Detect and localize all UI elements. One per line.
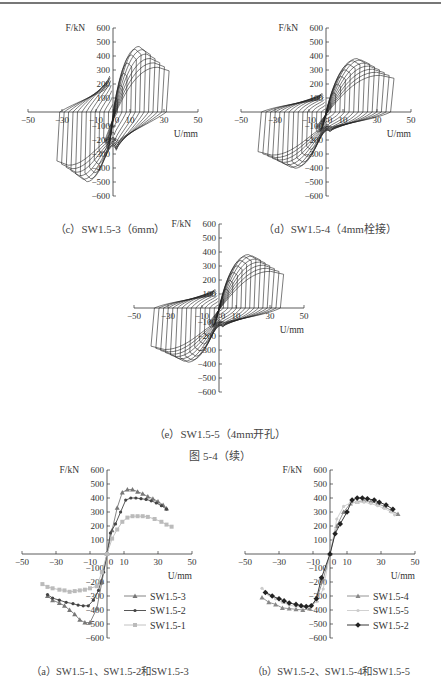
y-tick-label: 500 [203,233,217,243]
y-tick-label: −600 [304,191,323,201]
y-tick-label: −500 [197,373,216,383]
chart-hysteresis-sw15-4: −50−30−100103050600500400300200100−100−2… [220,0,441,210]
chart-skeleton-a: −50−30−100103050600500400300200100−100−2… [0,465,220,655]
y-tick-label: 100 [91,535,105,545]
y-tick-label: 300 [203,261,217,271]
y-tick-label: 600 [310,23,324,33]
x-tick-label: −50 [127,311,142,321]
x-tick-label: 0 [332,557,337,567]
x-tick-label: 50 [194,115,204,125]
legend: SW1.5-4SW1.5-5SW1.5-2 [347,591,409,631]
x-tick-label: 0 [109,557,114,567]
y-tick-label: 400 [314,493,328,503]
y-tick-label: 200 [314,521,328,531]
caption-b: （b）SW1.5-2、SW1.5-4和SW1.5-5 [226,663,436,678]
x-tick-label: 10 [343,557,353,567]
x-tick-label: 30 [160,115,170,125]
y-tick-label: 300 [91,507,105,517]
x-tick-label: 30 [154,557,164,567]
y-tick-label: 400 [310,51,324,61]
y-tick-label: −600 [197,387,216,397]
caption-e: （e）SW1.5-5（4mm开孔） [120,425,320,441]
y-axis-label: F/kN [65,23,85,33]
chart-hysteresis-sw15-5: −50−30−100103050600500400300200100−100−2… [110,235,330,415]
x-tick-label: −30 [272,557,287,567]
x-tick-label: 50 [300,311,310,321]
y-tick-label: 300 [314,507,328,517]
y-tick-label: 500 [97,37,111,47]
x-axis-label: U/mm [387,129,412,139]
y-tick-label: 500 [310,37,324,47]
y-axis-label: F/kN [171,219,191,229]
x-tick-label: 30 [377,557,387,567]
x-tick-label: −50 [234,115,249,125]
y-tick-label: −500 [91,177,110,187]
hysteresis-loop [161,265,275,354]
legend-label: SW1.5-2 [150,605,186,616]
legend-label: SW1.5-4 [373,591,409,602]
y-tick-label: −600 [308,633,327,643]
y-tick-label: 200 [91,521,105,531]
y-tick-label: −300 [85,591,104,601]
y-tick-label: 400 [97,51,111,61]
caption-d: （d）SW1.5-4（4mm栓接） [230,220,430,236]
x-tick-label: 50 [407,115,417,125]
x-tick-label: 30 [266,311,276,321]
x-axis-label: U/mm [174,129,199,139]
x-tick-label: −50 [21,115,36,125]
y-tick-label: −400 [197,359,216,369]
y-tick-label: −600 [91,191,110,201]
y-tick-label: 200 [310,79,324,89]
y-axis-label: F/kN [278,23,298,33]
y-tick-label: −400 [304,163,323,173]
y-tick-label: −600 [85,633,104,643]
x-tick-label: 50 [411,557,421,567]
x-tick-label: 10 [120,557,130,567]
caption-a: （a）SW1.5-1、SW1.5-2和SW1.5-3 [5,663,215,678]
x-tick-label: 10 [126,115,136,125]
y-tick-label: −500 [308,619,327,629]
y-tick-label: 600 [314,465,328,475]
x-axis-label: U/mm [280,325,305,335]
y-axis-label: F/kN [59,465,79,475]
x-tick-label: −30 [49,557,64,567]
legend-label: SW1.5-1 [150,620,186,631]
legend-label: SW1.5-5 [373,605,409,616]
y-tick-label: 500 [314,479,328,489]
y-tick-label: 300 [97,65,111,75]
y-tick-label: 600 [97,23,111,33]
legend: SW1.5-3SW1.5-2SW1.5-1 [124,591,186,631]
legend-label: SW1.5-3 [150,591,186,602]
x-axis-label: U/mm [391,571,416,581]
x-tick-label: −50 [238,557,253,567]
y-tick-label: −100 [91,121,110,131]
x-axis-label: U/mm [168,571,193,581]
y-tick-label: 400 [203,247,217,257]
y-tick-label: 200 [203,275,217,285]
y-axis-label: F/kN [282,465,302,475]
chart-skeleton-b: −50−30−100103050600500400300200100−100−2… [220,465,441,655]
y-tick-label: −500 [304,177,323,187]
axes: −50−30−100103050600500400300200100−100−2… [21,23,203,201]
x-tick-label: 50 [188,557,198,567]
x-tick-label: −30 [55,115,70,125]
y-tick-label: 300 [310,65,324,75]
y-tick-label: 600 [91,465,105,475]
y-tick-label: 400 [91,493,105,503]
y-tick-label: 500 [91,479,105,489]
y-tick-label: 100 [314,535,328,545]
x-tick-label: −50 [15,557,30,567]
chart-hysteresis-sw15-3: −50−30−100103050600500400300200100−100−2… [0,0,220,210]
figure-continued-caption: 图 5-4（续） [120,447,320,463]
y-tick-label: 600 [203,219,217,229]
hysteresis-loop [166,262,270,356]
legend-label: SW1.5-2 [373,620,409,631]
